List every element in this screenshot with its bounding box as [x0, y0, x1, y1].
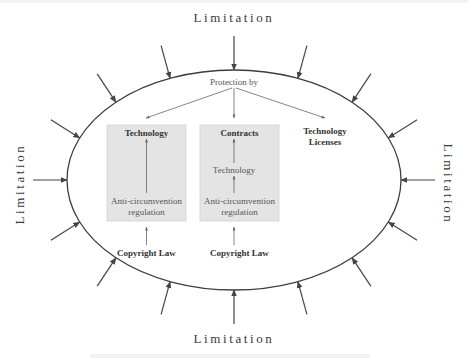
limitation-arrow: [161, 282, 170, 315]
cropped-caption-top: [0, 0, 468, 3]
anti-circumvention-label-1: Anti-circumvention: [111, 196, 182, 206]
limitation-label-right: Limitation: [441, 144, 456, 225]
limitation-arrow: [352, 258, 371, 286]
cropped-caption-bottom: [90, 354, 370, 358]
limitation-arrow: [97, 258, 116, 286]
limitation-diagram: Limitation Limitation Limitation Limitat…: [0, 0, 468, 358]
contracts-title: Contracts: [221, 128, 259, 138]
limitation-arrow: [51, 120, 80, 138]
copyright-law-label-2: Copyright Law: [210, 248, 269, 258]
limitation-arrow: [161, 46, 170, 79]
regulation-label-1: regulation: [128, 207, 165, 217]
copyright-law-label-1: Copyright Law: [117, 248, 176, 258]
limitation-arrow: [352, 74, 371, 102]
limitation-arrow: [298, 46, 307, 79]
limitation-arrow: [298, 282, 307, 315]
limitation-label-bottom: Limitation: [194, 331, 275, 346]
contracts-box-group: Contracts Technology Anti-circumvention …: [200, 125, 279, 221]
protection-by-label: Protection by: [210, 77, 259, 87]
arrow-to-technology: [146, 88, 232, 118]
limitation-arrow: [388, 222, 417, 240]
regulation-label-2: regulation: [221, 207, 258, 217]
arrow-to-technology-licenses: [236, 88, 325, 118]
limitation-arrow: [97, 74, 116, 102]
anti-circumvention-label-2: Anti-circumvention: [204, 196, 275, 206]
contracts-technology-label: Technology: [213, 165, 256, 175]
limitation-arrow: [51, 222, 80, 240]
limitation-arrow: [388, 120, 417, 138]
limitation-label-top: Limitation: [194, 10, 275, 25]
technology-title: Technology: [125, 128, 169, 138]
technology-licenses-line-1: Technology: [303, 126, 347, 136]
technology-licenses-line-2: Licenses: [309, 137, 342, 147]
technology-box-group: Technology Anti-circumvention regulation: [107, 125, 186, 221]
limitation-label-left: Limitation: [12, 144, 27, 225]
